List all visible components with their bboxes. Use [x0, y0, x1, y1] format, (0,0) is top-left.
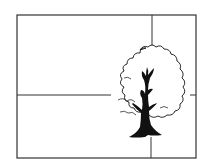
composition-diagram — [0, 0, 208, 166]
